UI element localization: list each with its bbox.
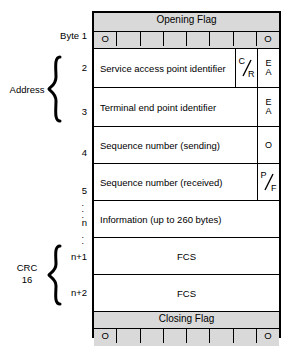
opening-flag-title: Opening Flag <box>94 13 279 27</box>
address-group-label: Address <box>6 84 48 95</box>
closing-flag-bit-7: O <box>257 329 279 343</box>
opening-flag-row: Opening Flag O O <box>94 13 279 49</box>
row-label-byte1: Byte 1 <box>60 31 87 41</box>
information-row: Information (up to 260 bytes) <box>94 201 279 238</box>
sequence-received-row: Sequence number (received) P F <box>94 164 279 201</box>
opening-flag-bit-2 <box>141 32 164 46</box>
ea-bottom-1: A <box>265 68 271 78</box>
closing-flag-bit-5 <box>210 329 233 343</box>
crc-brace <box>47 244 63 306</box>
fcs-row-2: FCS <box>94 275 279 312</box>
sapi-ea-bit: E A <box>257 49 279 87</box>
poll-final-bit: P F <box>257 164 279 200</box>
lapd-frame-diagram: Byte 1 2 3 4 5 . . . n . . n+1 n+2 Addre… <box>0 0 299 355</box>
sequence-sending-row: Sequence number (sending) O <box>94 127 279 164</box>
frame-table: Opening Flag O O Service access point id… <box>92 11 281 338</box>
crc-group-label-line1: CRC <box>8 262 46 273</box>
closing-flag-bit-3 <box>164 329 187 343</box>
row-label-gutter: Byte 1 2 3 4 5 . . . n . . n+1 n+2 Addre… <box>0 0 92 355</box>
closing-flag-bit-2 <box>141 329 164 343</box>
row-label-n: n <box>82 218 87 228</box>
row-label-ellipsis-lower: . . <box>81 232 84 244</box>
fcs-row-1: FCS <box>94 238 279 275</box>
sequence-sending-bit: O <box>257 127 279 163</box>
row-label-5: 5 <box>82 186 87 196</box>
opening-flag-bit-5 <box>210 32 233 46</box>
crc-group-label-line2: 16 <box>8 274 46 285</box>
tei-ea-bit: E A <box>257 88 279 126</box>
sapi-cr-bit: C R <box>235 49 257 87</box>
row-label-4: 4 <box>82 148 87 158</box>
sequence-received-label: Sequence number (received) <box>100 164 223 200</box>
fcs-label-1: FCS <box>94 238 279 274</box>
row-label-n-plus-1: n+1 <box>71 252 87 262</box>
opening-flag-bit-strip: O O <box>94 31 279 46</box>
closing-flag-bit-6 <box>234 329 257 343</box>
row-label-2: 2 <box>82 63 87 73</box>
sequence-sending-label: Sequence number (sending) <box>100 127 220 163</box>
row-label-n-plus-2: n+2 <box>71 288 87 298</box>
ea-bottom-2: A <box>265 107 271 117</box>
opening-flag-bit-6 <box>234 32 257 46</box>
closing-flag-bit-strip: O O <box>94 328 279 343</box>
opening-flag-bit-4 <box>187 32 210 46</box>
row-label-ellipsis-upper: . . . <box>81 200 84 218</box>
opening-flag-bit-0: O <box>94 32 117 46</box>
closing-flag-bit-1 <box>117 329 140 343</box>
sapi-row: Service access point identifier C R E A <box>94 49 279 88</box>
pf-denominator: F <box>271 184 277 193</box>
opening-flag-bit-1 <box>117 32 140 46</box>
sapi-label: Service access point identifier <box>100 49 226 87</box>
tei-label: Terminal end point identifier <box>100 88 216 126</box>
closing-flag-row: Closing Flag O O <box>94 312 279 346</box>
tei-row: Terminal end point identifier E A <box>94 88 279 127</box>
opening-flag-bit-3 <box>164 32 187 46</box>
closing-flag-bit-0: O <box>94 329 117 343</box>
ns-bit-value: O <box>265 141 272 150</box>
closing-flag-bit-4 <box>187 329 210 343</box>
address-brace <box>47 55 63 123</box>
opening-flag-bit-7: O <box>257 32 279 46</box>
fcs-label-2: FCS <box>94 275 279 311</box>
cr-denominator: R <box>248 70 255 79</box>
row-label-3: 3 <box>82 107 87 117</box>
closing-flag-title: Closing Flag <box>94 312 279 326</box>
information-label: Information (up to 260 bytes) <box>100 201 221 237</box>
